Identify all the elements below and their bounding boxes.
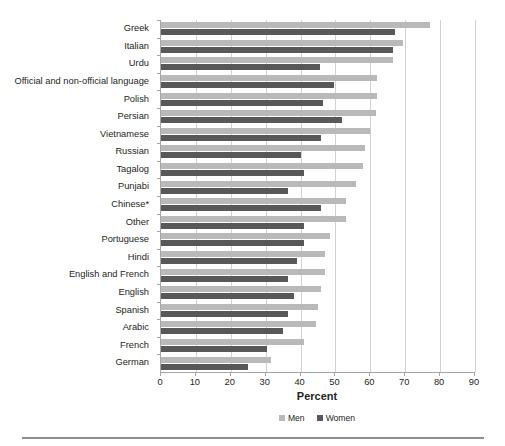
bar-men <box>161 304 318 310</box>
gridline <box>475 20 476 372</box>
bar-women <box>161 346 267 352</box>
category-label: Portuguese <box>0 231 155 249</box>
bar-group <box>161 214 475 232</box>
plot-area <box>160 20 475 372</box>
bar-women <box>161 240 304 246</box>
legend-label: Women <box>326 413 355 423</box>
bar-men <box>161 22 430 28</box>
y-tick-mark <box>157 126 161 127</box>
bar-women <box>161 223 304 229</box>
category-label: Italian <box>0 38 155 56</box>
y-tick-mark <box>157 143 161 144</box>
bar-women <box>161 205 321 211</box>
bar-women <box>161 82 334 88</box>
y-tick-mark <box>157 38 161 39</box>
category-label: Polish <box>0 90 155 108</box>
category-label: Hindi <box>0 249 155 267</box>
x-tick-label: 90 <box>469 377 479 387</box>
bar-group <box>161 337 475 355</box>
category-label: German <box>0 354 155 372</box>
y-tick-mark <box>157 178 161 179</box>
bar-men <box>161 128 370 134</box>
bar-group <box>161 143 475 161</box>
x-tick-label: 10 <box>190 377 200 387</box>
chart-plot-wrapper: GreekItalianUrduOfficial and non-officia… <box>0 0 505 446</box>
y-tick-mark <box>157 302 161 303</box>
category-label: Russian <box>0 143 155 161</box>
bar-women <box>161 100 323 106</box>
x-tick-mark <box>439 372 440 376</box>
bar-men <box>161 40 403 46</box>
y-tick-mark <box>157 214 161 215</box>
bar-men <box>161 93 377 99</box>
x-tick-label: 60 <box>364 377 374 387</box>
y-tick-mark <box>157 319 161 320</box>
category-label: Chinese* <box>0 196 155 214</box>
x-tick-label: 80 <box>434 377 444 387</box>
bar-group <box>161 249 475 267</box>
bar-group <box>161 126 475 144</box>
y-tick-mark <box>157 231 161 232</box>
bar-women <box>161 328 283 334</box>
bar-women <box>161 188 288 194</box>
y-tick-mark <box>157 90 161 91</box>
bar-men <box>161 269 325 275</box>
x-tick-mark <box>265 372 266 376</box>
bar-men <box>161 75 377 81</box>
x-tick-mark <box>160 372 161 376</box>
bar-group <box>161 319 475 337</box>
bar-women <box>161 64 320 70</box>
chart-legend: MenWomen <box>160 413 474 423</box>
bar-women <box>161 170 304 176</box>
bar-group <box>161 231 475 249</box>
bar-group <box>161 108 475 126</box>
bar-men <box>161 357 271 363</box>
bar-men <box>161 110 376 116</box>
y-tick-mark <box>157 108 161 109</box>
bar-men <box>161 321 316 327</box>
category-label: Greek <box>0 20 155 38</box>
x-tick-mark <box>404 372 405 376</box>
bar-women <box>161 135 321 141</box>
y-tick-mark <box>157 196 161 197</box>
x-axis-ticks: 0102030405060708090 <box>160 372 474 378</box>
x-tick-label: 30 <box>259 377 269 387</box>
x-tick-label: 50 <box>329 377 339 387</box>
bar-group <box>161 354 475 372</box>
y-tick-mark <box>157 73 161 74</box>
category-label: Persian <box>0 108 155 126</box>
x-tick-mark <box>334 372 335 376</box>
bar-women <box>161 258 297 264</box>
bar-men <box>161 251 325 257</box>
y-tick-mark <box>157 337 161 338</box>
bar-men <box>161 286 321 292</box>
bar-group <box>161 266 475 284</box>
bar-women <box>161 152 301 158</box>
bar-men <box>161 216 346 222</box>
bar-women <box>161 364 248 370</box>
x-tick-label: 0 <box>157 377 162 387</box>
category-label: Tagalog <box>0 161 155 179</box>
category-label: Arabic <box>0 319 155 337</box>
category-axis-labels: GreekItalianUrduOfficial and non-officia… <box>0 20 155 372</box>
x-tick-label: 70 <box>399 377 409 387</box>
y-tick-mark <box>157 55 161 56</box>
bar-group <box>161 55 475 73</box>
x-tick-mark <box>369 372 370 376</box>
bar-groups <box>161 20 475 372</box>
legend-swatch-icon <box>317 415 323 421</box>
category-label: Official and non-official language <box>0 73 155 91</box>
footer-divider <box>22 437 484 439</box>
category-label: Vietnamese <box>0 126 155 144</box>
y-tick-mark <box>157 20 161 21</box>
category-label: Other <box>0 214 155 232</box>
bar-group <box>161 161 475 179</box>
bar-men <box>161 163 363 169</box>
bar-men <box>161 339 304 345</box>
x-tick-label: 40 <box>294 377 304 387</box>
category-label: Punjabi <box>0 178 155 196</box>
bar-women <box>161 117 342 123</box>
bar-men <box>161 181 356 187</box>
bar-men <box>161 145 365 151</box>
legend-swatch-icon <box>279 415 285 421</box>
